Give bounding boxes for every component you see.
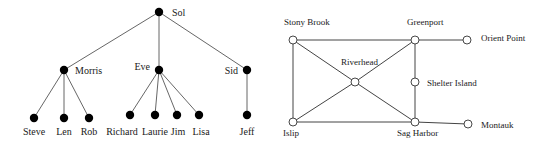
graph-label-montauk: Montauk (481, 120, 514, 130)
hollow-node-circle (351, 78, 359, 86)
tree-node-rob: Rob (81, 114, 98, 137)
tree-label-laurie: Laurie (142, 126, 169, 137)
tree-label-morris: Morris (75, 65, 102, 76)
tree-edge-eve-richard (130, 70, 159, 115)
graph-label-greenport: Greenport (407, 17, 444, 27)
hollow-node-circle (411, 36, 419, 44)
tree-node-jeff: Jeff (240, 111, 255, 137)
filled-node-dot (243, 111, 251, 119)
tree-label-eve: Eve (134, 61, 150, 72)
tree-edge-morris-rob (64, 70, 89, 118)
graph-edge-riverhead-sag_harbor (355, 82, 415, 122)
filled-node-dot (195, 111, 203, 119)
filled-node-dot (60, 66, 68, 74)
tree-edge-eve-laurie (155, 70, 159, 115)
tree-label-sid: Sid (225, 65, 238, 76)
filled-node-dot (30, 114, 38, 122)
tree-label-richard: Richard (106, 126, 138, 137)
filled-node-dot (155, 66, 163, 74)
graph-label-sag_harbor: Sag Harbor (397, 128, 438, 138)
filled-node-dot (85, 114, 93, 122)
graph-label-stony_brook: Stony Brook (284, 17, 330, 27)
hollow-node-circle (411, 78, 419, 86)
tree-label-jim: Jim (171, 126, 186, 137)
filled-node-dot (126, 111, 134, 119)
hollow-node-circle (464, 120, 472, 128)
hollow-node-circle (289, 118, 297, 126)
hollow-node-circle (463, 36, 471, 44)
graph-node-orient_point: Orient Point (463, 33, 526, 44)
tree-label-rob: Rob (81, 126, 98, 137)
filled-node-dot (243, 66, 251, 74)
filled-node-dot (151, 111, 159, 119)
tree-node-richard: Richard (106, 111, 138, 137)
diagram-canvas: SolMorrisEveSidSteveLenRobRichardLaurieJ… (0, 0, 534, 145)
hollow-node-circle (411, 118, 419, 126)
tree-node-jim: Jim (171, 111, 186, 137)
filled-node-dot (173, 111, 181, 119)
tree-edge-eve-jim (159, 70, 177, 115)
graph-node-shelter_island: Shelter Island (411, 78, 477, 88)
tree-label-lisa: Lisa (192, 126, 210, 137)
filled-node-dot (60, 114, 68, 122)
tree-label-steve: Steve (23, 126, 46, 137)
family-tree: SolMorrisEveSidSteveLenRobRichardLaurieJ… (23, 7, 255, 137)
filled-node-dot (155, 8, 163, 16)
town-graph: Stony BrookGreenportOrient PointRiverhea… (283, 17, 526, 138)
tree-node-lisa: Lisa (192, 111, 210, 137)
graph-label-shelter_island: Shelter Island (427, 78, 477, 88)
tree-label-len: Len (56, 126, 72, 137)
tree-edge-sol-sid (159, 12, 247, 70)
tree-label-jeff: Jeff (240, 126, 255, 137)
tree-node-laurie: Laurie (142, 111, 169, 137)
graph-label-riverhead: Riverhead (341, 57, 378, 67)
tree-nodes: SolMorrisEveSidSteveLenRobRichardLaurieJ… (23, 7, 255, 137)
tree-edge-morris-steve (34, 70, 64, 118)
tree-node-steve: Steve (23, 114, 46, 137)
graph-node-islip: Islip (283, 118, 300, 138)
tree-edge-eve-lisa (159, 70, 199, 115)
graph-node-montauk: Montauk (464, 120, 514, 130)
tree-node-len: Len (56, 114, 72, 137)
tree-label-sol: Sol (172, 7, 186, 18)
graph-node-sag_harbor: Sag Harbor (397, 118, 438, 138)
graph-nodes: Stony BrookGreenportOrient PointRiverhea… (283, 17, 526, 138)
graph-label-orient_point: Orient Point (481, 33, 526, 43)
graph-edge-sag_harbor-montauk (415, 122, 468, 124)
graph-label-islip: Islip (283, 128, 300, 138)
graph-edge-islip-riverhead (293, 82, 355, 122)
hollow-node-circle (289, 36, 297, 44)
graph-node-riverhead: Riverhead (341, 57, 378, 86)
